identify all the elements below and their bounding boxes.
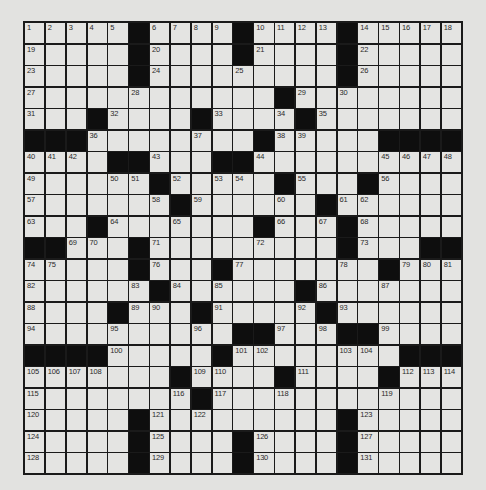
grid-cell[interactable]	[233, 131, 252, 151]
grid-cell[interactable]: 74	[25, 260, 44, 280]
grid-cell[interactable]	[338, 131, 357, 151]
grid-cell[interactable]	[400, 66, 419, 86]
grid-cell[interactable]: 104	[358, 346, 377, 366]
grid-cell[interactable]: 28	[129, 88, 148, 108]
grid-cell[interactable]	[46, 453, 65, 473]
grid-cell[interactable]	[421, 45, 440, 65]
grid-cell[interactable]: 68	[358, 217, 377, 237]
grid-cell[interactable]: 119	[379, 389, 398, 409]
grid-cell[interactable]	[400, 238, 419, 258]
grid-cell[interactable]	[67, 303, 86, 323]
grid-cell[interactable]: 36	[88, 131, 107, 151]
grid-cell[interactable]: 34	[275, 109, 294, 129]
grid-cell[interactable]	[254, 410, 273, 430]
grid-cell[interactable]	[171, 324, 190, 344]
grid-cell[interactable]	[254, 174, 273, 194]
grid-cell[interactable]	[233, 281, 252, 301]
grid-cell[interactable]: 57	[25, 195, 44, 215]
grid-cell[interactable]: 103	[338, 346, 357, 366]
grid-cell[interactable]: 113	[421, 367, 440, 387]
grid-cell[interactable]	[88, 260, 107, 280]
grid-cell[interactable]	[129, 131, 148, 151]
grid-cell[interactable]	[275, 281, 294, 301]
grid-cell[interactable]	[442, 88, 461, 108]
grid-cell[interactable]	[233, 109, 252, 129]
grid-cell[interactable]	[46, 66, 65, 86]
grid-cell[interactable]	[275, 346, 294, 366]
grid-cell[interactable]: 59	[192, 195, 211, 215]
grid-cell[interactable]	[108, 45, 127, 65]
grid-cell[interactable]	[171, 109, 190, 129]
grid-cell[interactable]	[233, 217, 252, 237]
grid-cell[interactable]	[67, 217, 86, 237]
grid-cell[interactable]	[213, 324, 232, 344]
grid-cell[interactable]	[67, 389, 86, 409]
grid-cell[interactable]	[129, 109, 148, 129]
grid-cell[interactable]	[442, 109, 461, 129]
grid-cell[interactable]	[254, 303, 273, 323]
grid-cell[interactable]	[421, 303, 440, 323]
grid-cell[interactable]	[46, 324, 65, 344]
grid-cell[interactable]	[67, 453, 86, 473]
grid-cell[interactable]	[296, 66, 315, 86]
grid-cell[interactable]: 38	[275, 131, 294, 151]
grid-cell[interactable]: 100	[108, 346, 127, 366]
grid-cell[interactable]	[254, 281, 273, 301]
grid-cell[interactable]: 112	[400, 367, 419, 387]
grid-cell[interactable]	[171, 346, 190, 366]
grid-cell[interactable]	[46, 410, 65, 430]
grid-cell[interactable]: 40	[25, 152, 44, 172]
grid-cell[interactable]	[400, 281, 419, 301]
grid-cell[interactable]: 29	[296, 88, 315, 108]
grid-cell[interactable]: 87	[379, 281, 398, 301]
grid-cell[interactable]: 16	[400, 23, 419, 43]
grid-cell[interactable]	[275, 303, 294, 323]
grid-cell[interactable]: 72	[254, 238, 273, 258]
grid-cell[interactable]	[67, 88, 86, 108]
grid-cell[interactable]	[88, 303, 107, 323]
grid-cell[interactable]	[67, 66, 86, 86]
grid-cell[interactable]	[442, 195, 461, 215]
grid-cell[interactable]: 47	[421, 152, 440, 172]
grid-cell[interactable]: 37	[192, 131, 211, 151]
grid-cell[interactable]: 97	[275, 324, 294, 344]
grid-cell[interactable]	[400, 195, 419, 215]
grid-cell[interactable]: 62	[358, 195, 377, 215]
grid-cell[interactable]: 93	[338, 303, 357, 323]
grid-cell[interactable]	[108, 238, 127, 258]
grid-cell[interactable]	[317, 66, 336, 86]
grid-cell[interactable]: 123	[358, 410, 377, 430]
grid-cell[interactable]: 108	[88, 367, 107, 387]
grid-cell[interactable]	[379, 66, 398, 86]
grid-cell[interactable]	[46, 217, 65, 237]
grid-cell[interactable]: 64	[108, 217, 127, 237]
grid-cell[interactable]: 51	[129, 174, 148, 194]
grid-cell[interactable]	[275, 45, 294, 65]
grid-cell[interactable]	[275, 453, 294, 473]
grid-cell[interactable]	[254, 88, 273, 108]
grid-cell[interactable]: 31	[25, 109, 44, 129]
grid-cell[interactable]	[338, 281, 357, 301]
grid-cell[interactable]: 66	[275, 217, 294, 237]
grid-cell[interactable]	[88, 281, 107, 301]
grid-cell[interactable]: 95	[108, 324, 127, 344]
grid-cell[interactable]	[129, 389, 148, 409]
grid-cell[interactable]: 27	[25, 88, 44, 108]
grid-cell[interactable]	[400, 389, 419, 409]
grid-cell[interactable]	[233, 88, 252, 108]
grid-cell[interactable]	[379, 217, 398, 237]
grid-cell[interactable]: 1	[25, 23, 44, 43]
grid-cell[interactable]: 46	[400, 152, 419, 172]
grid-cell[interactable]: 110	[213, 367, 232, 387]
grid-cell[interactable]	[88, 324, 107, 344]
grid-cell[interactable]: 73	[358, 238, 377, 258]
grid-cell[interactable]	[254, 195, 273, 215]
grid-cell[interactable]	[358, 131, 377, 151]
grid-cell[interactable]: 23	[25, 66, 44, 86]
grid-cell[interactable]: 49	[25, 174, 44, 194]
grid-cell[interactable]	[213, 45, 232, 65]
grid-cell[interactable]	[46, 45, 65, 65]
grid-cell[interactable]: 10	[254, 23, 273, 43]
grid-cell[interactable]: 80	[421, 260, 440, 280]
grid-cell[interactable]: 102	[254, 346, 273, 366]
